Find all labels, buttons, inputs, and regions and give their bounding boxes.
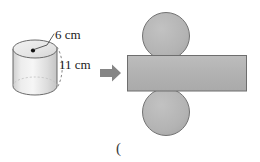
cylinder-net-figure: 6 cm 11 cm ( (0, 0, 260, 162)
net-lateral-rectangle (128, 56, 247, 92)
cylinder-net (128, 13, 247, 136)
trailing-paren-text: ( (116, 141, 121, 156)
net-top-circle (143, 13, 190, 60)
figure-canvas (0, 0, 260, 162)
height-label: 11 cm (59, 58, 91, 71)
cylinder-solid (13, 34, 62, 95)
net-bottom-circle (143, 89, 190, 136)
arrow-icon (100, 65, 121, 82)
transform-arrow (100, 65, 121, 82)
diameter-label: 6 cm (55, 28, 81, 41)
